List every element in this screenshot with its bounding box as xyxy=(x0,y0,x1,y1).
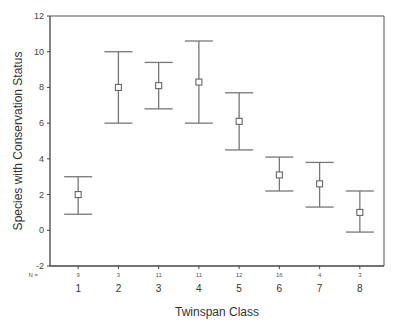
category-label: 2 xyxy=(116,283,122,294)
n-count-label: 11 xyxy=(196,272,203,278)
y-tick-label: 2 xyxy=(39,190,44,200)
error-bar xyxy=(64,177,92,215)
x-axis-title: Twinspan Class xyxy=(175,305,259,319)
y-tick-label: 8 xyxy=(39,82,44,92)
mean-marker-square-icon xyxy=(196,79,202,85)
n-count-label: 16 xyxy=(276,272,283,278)
n-count-label: 4 xyxy=(318,272,322,278)
mean-marker-square-icon xyxy=(276,172,282,178)
n-count-label: 11 xyxy=(156,272,163,278)
mean-marker-square-icon xyxy=(236,118,242,124)
y-tick-label: -2 xyxy=(36,261,44,271)
y-ticks: -2024681012 xyxy=(34,11,50,271)
category-label: 1 xyxy=(75,283,81,294)
mean-marker-square-icon xyxy=(156,83,162,89)
y-axis-title: Species with Conservation Status xyxy=(11,52,25,231)
error-bars xyxy=(64,41,374,232)
error-bar xyxy=(306,162,334,207)
category-label: 7 xyxy=(317,283,323,294)
y-tick-label: 4 xyxy=(39,154,44,164)
mean-marker-square-icon xyxy=(357,209,363,215)
x-ticks: 91321131141251664738 xyxy=(75,266,363,294)
n-count-label: 9 xyxy=(76,272,80,278)
category-label: 3 xyxy=(156,283,162,294)
n-prefix-label: N = xyxy=(28,272,38,278)
plot-frame xyxy=(50,16,384,266)
mean-marker-square-icon xyxy=(317,181,323,187)
error-bar xyxy=(346,191,374,232)
mean-marker-square-icon xyxy=(75,192,81,198)
mean-marker-square-icon xyxy=(115,84,121,90)
error-bar xyxy=(265,157,293,191)
n-count-label: 3 xyxy=(358,272,362,278)
category-label: 5 xyxy=(236,283,242,294)
error-bar xyxy=(104,52,132,123)
y-tick-label: 0 xyxy=(39,225,44,235)
y-tick-label: 12 xyxy=(34,11,44,21)
y-tick-label: 6 xyxy=(39,118,44,128)
error-bar-chart: -2024681012 91321131141251664738 N = Twi… xyxy=(0,0,394,331)
error-bar xyxy=(225,93,253,150)
error-bar xyxy=(145,62,173,108)
category-label: 6 xyxy=(277,283,283,294)
n-count-label: 3 xyxy=(117,272,121,278)
n-count-label: 12 xyxy=(236,272,243,278)
category-label: 8 xyxy=(357,283,363,294)
y-tick-label: 10 xyxy=(34,47,44,57)
category-label: 4 xyxy=(196,283,202,294)
error-bar xyxy=(185,41,213,123)
